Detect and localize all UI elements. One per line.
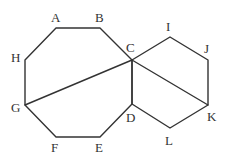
vertex-label-d: D (126, 110, 135, 125)
diagonal-segments (25, 60, 208, 105)
geometry-diagram: ABCDEFGHIJKL (0, 0, 225, 156)
vertex-label-a: A (51, 10, 61, 25)
vertex-label-b: B (95, 10, 104, 25)
segment-cg (25, 60, 132, 105)
vertex-label-e: E (95, 140, 103, 155)
vertex-label-h: H (11, 50, 20, 65)
vertex-label-f: F (51, 140, 58, 155)
vertex-label-j: J (204, 41, 209, 56)
vertex-labels: ABCDEFGHIJKL (11, 10, 217, 155)
vertex-label-g: G (11, 100, 20, 115)
vertex-label-c: C (126, 40, 135, 55)
vertex-label-l: L (165, 133, 173, 148)
vertex-label-k: K (207, 109, 217, 124)
vertex-label-i: I (166, 19, 170, 34)
segment-ck (132, 60, 208, 105)
